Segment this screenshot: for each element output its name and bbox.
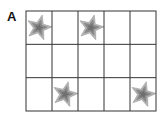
star-icon [54, 82, 78, 107]
star-icon [28, 15, 52, 40]
grid-diagram [0, 0, 166, 114]
star-icon [132, 82, 156, 107]
star-icon [80, 15, 104, 40]
